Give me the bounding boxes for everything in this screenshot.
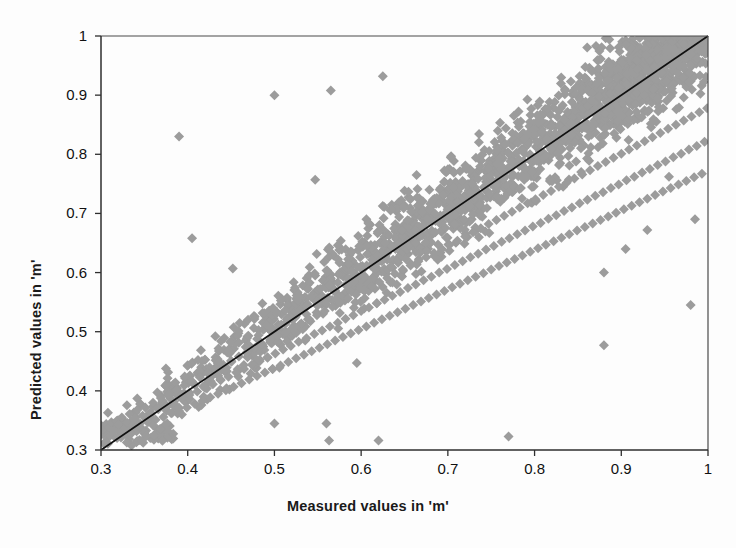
x-tick-label: 0.3 <box>71 460 131 477</box>
y-axis-title: Predicted values in 'm' <box>28 259 44 420</box>
y-tick-label: 0.8 <box>23 145 87 162</box>
x-tick-label: 0.8 <box>505 460 565 477</box>
x-axis-title: Measured values in 'm' <box>0 498 736 514</box>
x-tick-label: 0.7 <box>418 460 478 477</box>
x-tick-label: 0.5 <box>244 460 304 477</box>
scatter-plot-figure: 0.30.40.50.60.70.80.91 0.30.40.50.60.70.… <box>0 0 736 548</box>
y-tick-label: 0.9 <box>23 86 87 103</box>
x-tick-label: 0.4 <box>158 460 218 477</box>
y-tick-label: 0.7 <box>23 204 87 221</box>
x-tick-label: 0.9 <box>591 460 651 477</box>
x-tick-label: 0.6 <box>331 460 391 477</box>
y-tick-label: 0.3 <box>23 441 87 458</box>
y-tick-label: 1 <box>23 27 87 44</box>
x-tick-label: 1 <box>678 460 736 477</box>
